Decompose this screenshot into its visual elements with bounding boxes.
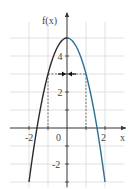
function-plot: f(x) x -20242-2	[0, 0, 130, 189]
y-axis-arrow-icon	[65, 12, 69, 17]
arrow-left-pointing-icon	[68, 72, 72, 77]
x-tick-label: 0	[56, 132, 61, 143]
y-tick-label: 4	[58, 51, 63, 62]
y-axis-label: f(x)	[42, 15, 57, 27]
x-axis-label: x	[120, 132, 125, 143]
y-tick-label: 2	[58, 87, 63, 98]
x-axis-arrow-icon	[121, 126, 126, 130]
arrow-right-pointing-icon	[62, 72, 66, 77]
y-tick-label: -2	[52, 159, 60, 170]
x-tick-label: 2	[101, 132, 106, 143]
x-tick-label: -2	[25, 132, 33, 143]
